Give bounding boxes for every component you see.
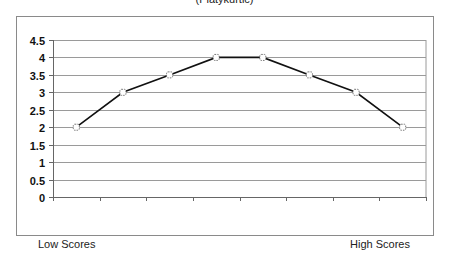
- data-point-marker: [353, 89, 359, 95]
- y-tick-label: 2.5: [30, 105, 45, 117]
- x-axis-left-label: Low Scores: [38, 238, 95, 250]
- y-tick-label: 3.5: [30, 70, 45, 82]
- x-axis-right-label: High Scores: [350, 238, 410, 250]
- data-point-marker: [167, 72, 173, 78]
- y-tick-label: 1: [39, 157, 45, 169]
- y-tick-label: 2: [39, 122, 45, 134]
- y-tick-label: 1.5: [30, 140, 45, 152]
- y-tick-label: 0.5: [30, 175, 45, 187]
- y-tick-label: 0: [39, 192, 45, 204]
- data-point-marker: [306, 72, 312, 78]
- data-point-marker: [260, 54, 266, 60]
- y-tick-label: 4: [39, 52, 46, 64]
- data-point-marker: [400, 124, 406, 130]
- y-tick-label: 3: [39, 87, 45, 99]
- y-axis: 00.511.522.533.544.5: [30, 35, 54, 204]
- gridlines: [53, 40, 426, 197]
- data-point-marker: [73, 124, 79, 130]
- x-axis: [53, 197, 427, 201]
- data-point-marker: [120, 89, 126, 95]
- y-tick-label: 4.5: [30, 35, 45, 47]
- data-point-marker: [213, 54, 219, 60]
- line-chart-plot: 00.511.522.533.544.5: [0, 0, 449, 255]
